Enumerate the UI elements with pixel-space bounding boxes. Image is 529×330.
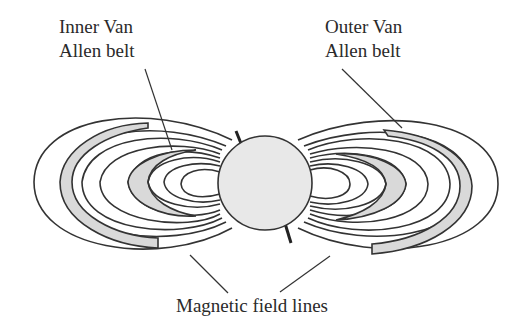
inner-belt-label-line2: Allen belt [59,39,134,63]
inner-belt-label-line1: Inner Van [59,15,134,39]
field-lines-pointer-right [280,256,330,292]
field-line [82,138,222,229]
inner-belt-label: Inner Van Allen belt [59,15,134,63]
field-line [181,170,220,197]
outer-belt-label: Outer Van Allen belt [325,15,402,63]
outer-belt-label-line2: Allen belt [325,39,402,63]
inner-belt-right [336,154,406,220]
outer-belt-pointer [342,69,402,128]
outer-belt-label-line1: Outer Van [325,15,402,39]
field-lines-pointer-left [190,255,228,293]
field-line [310,168,350,198]
field-lines-label: Magnetic field lines [176,294,328,318]
left-field-lines [34,118,232,249]
right-field-lines [298,121,498,254]
earth [218,136,312,230]
van-allen-belt-diagram: Inner Van Allen belt Outer Van Allen bel… [0,0,529,330]
